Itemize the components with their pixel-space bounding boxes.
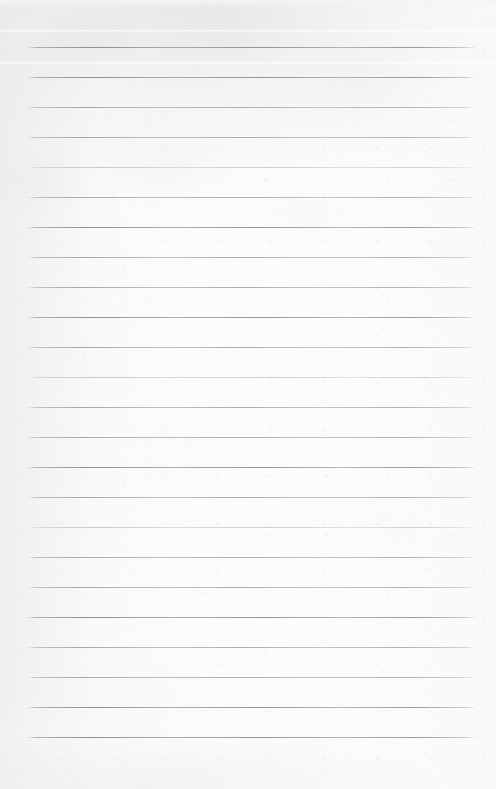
writing-area[interactable]: [27, 36, 477, 751]
notepaper-page: [0, 0, 496, 789]
